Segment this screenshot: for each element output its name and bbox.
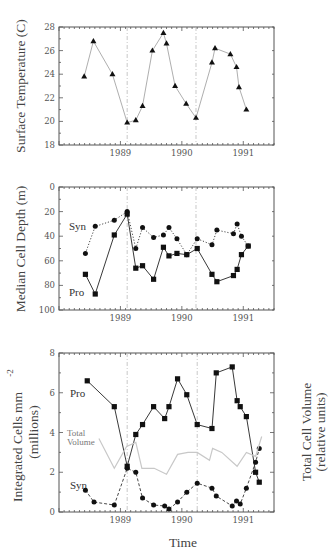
data-point-pro <box>125 211 130 216</box>
data-point-pro <box>112 404 117 409</box>
panel-integrated-cells: Integrated Cells mm -2 (millions) Total … <box>5 348 328 550</box>
data-point-syn <box>166 225 171 230</box>
data-point-pro <box>85 378 90 383</box>
data-point-pro <box>253 470 258 475</box>
data-point-pro <box>244 414 249 419</box>
data-point-surface-temperature <box>172 83 178 88</box>
data-point-pro <box>235 267 240 272</box>
panel-median-cell-depth: Median Cell Depth (m) Syn Pro 1989199019… <box>13 182 274 323</box>
data-point-surface-temperature <box>140 103 146 108</box>
y-axis-label-superscript: -2 <box>5 369 15 377</box>
data-point-syn <box>112 503 117 508</box>
data-point-syn <box>140 496 145 501</box>
x-tick-label: 1989 <box>110 148 132 158</box>
data-point-syn <box>151 235 156 240</box>
x-tick-label: 1991 <box>232 148 254 158</box>
y-axis-label-line1: Integrated Cells mm <box>10 391 25 502</box>
y-axis-label-line2: (millions) <box>26 405 41 458</box>
data-point-pro <box>231 273 236 278</box>
data-point-syn <box>140 225 145 230</box>
x-tick-label: 1990 <box>171 313 193 323</box>
data-point-pro <box>133 266 138 271</box>
data-point-syn <box>244 486 249 491</box>
data-point-syn <box>166 507 171 512</box>
data-point-pro <box>151 404 156 409</box>
x-tick-label: 1990 <box>171 148 193 158</box>
data-point-pro <box>239 252 244 257</box>
data-point-pro <box>166 404 171 409</box>
data-point-syn <box>209 486 214 491</box>
y-tick-label: 40 <box>44 231 55 241</box>
data-point-syn <box>231 231 236 236</box>
data-point-surface-temperature <box>149 47 155 52</box>
data-point-syn <box>235 221 240 226</box>
data-point-pro <box>195 422 200 427</box>
y-tick-label: 22 <box>44 93 55 103</box>
y2-axis-label-line1: Total Cell Volume <box>299 383 314 481</box>
series-line-syn <box>85 448 259 509</box>
data-point-syn <box>125 466 130 471</box>
y-tick-label: 6 <box>50 388 55 398</box>
y-tick-label: 20 <box>44 207 55 217</box>
data-point-pro <box>184 392 189 397</box>
annotation-pro: Pro <box>70 387 86 399</box>
data-point-surface-temperature <box>81 73 87 78</box>
data-point-surface-temperature <box>133 117 139 122</box>
data-point-syn <box>162 504 167 509</box>
y-tick-label: 18 <box>44 140 55 150</box>
data-point-syn <box>92 500 97 505</box>
data-point-pro <box>214 279 219 284</box>
data-point-pro <box>93 291 98 296</box>
data-point-surface-temperature <box>243 106 249 111</box>
data-point-pro <box>175 376 180 381</box>
data-point-pro <box>214 370 219 375</box>
y-axis-label: Median Cell Depth (m) <box>13 186 28 312</box>
x-tick-label: 1991 <box>232 515 254 525</box>
data-point-syn <box>175 500 180 505</box>
data-point-pro <box>230 364 235 369</box>
data-point-pro <box>161 245 166 250</box>
data-point-syn <box>151 503 156 508</box>
y-tick-label: 4 <box>50 428 55 438</box>
data-point-pro <box>83 272 88 277</box>
data-point-pro <box>112 232 117 237</box>
data-point-pro <box>174 251 179 256</box>
data-point-syn <box>214 228 219 233</box>
data-point-pro <box>195 246 200 251</box>
data-point-pro <box>140 263 145 268</box>
y-tick-label: 80 <box>44 280 55 290</box>
series-line-total-volume <box>99 437 262 475</box>
y-tick-label: 100 <box>39 305 55 315</box>
data-point-pro <box>184 252 189 257</box>
x-tick-label: 1991 <box>232 313 254 323</box>
data-point-surface-temperature <box>183 101 189 106</box>
y-tick-label: 20 <box>44 116 55 126</box>
data-point-surface-temperature <box>234 64 240 69</box>
data-point-syn <box>184 490 189 495</box>
data-point-pro <box>140 422 145 427</box>
data-point-syn <box>133 470 138 475</box>
data-point-syn <box>195 236 200 241</box>
data-point-pro <box>257 480 262 485</box>
y-tick-label: 0 <box>50 507 55 517</box>
panel-surface-temperature: Surface Temperature (C) 1989199019911820… <box>13 19 274 158</box>
data-point-syn <box>214 494 219 499</box>
data-point-syn <box>161 232 166 237</box>
data-point-syn <box>83 488 88 493</box>
y-tick-label: 8 <box>50 348 55 358</box>
x-axis-label: Time <box>169 535 197 550</box>
x-tick-label: 1989 <box>110 515 132 525</box>
data-point-pro <box>246 243 251 248</box>
data-point-syn <box>93 224 98 229</box>
data-point-syn <box>209 242 214 247</box>
y-tick-label: 2 <box>50 467 55 477</box>
data-point-syn <box>174 236 179 241</box>
data-point-syn <box>112 218 117 223</box>
y-tick-label: 28 <box>44 22 55 32</box>
data-point-pro <box>166 253 171 258</box>
data-point-syn <box>239 234 244 239</box>
data-point-pro <box>133 432 138 437</box>
y-tick-label: 24 <box>44 69 55 79</box>
x-tick-label: 1990 <box>171 515 193 525</box>
data-point-surface-temperature <box>160 30 166 35</box>
